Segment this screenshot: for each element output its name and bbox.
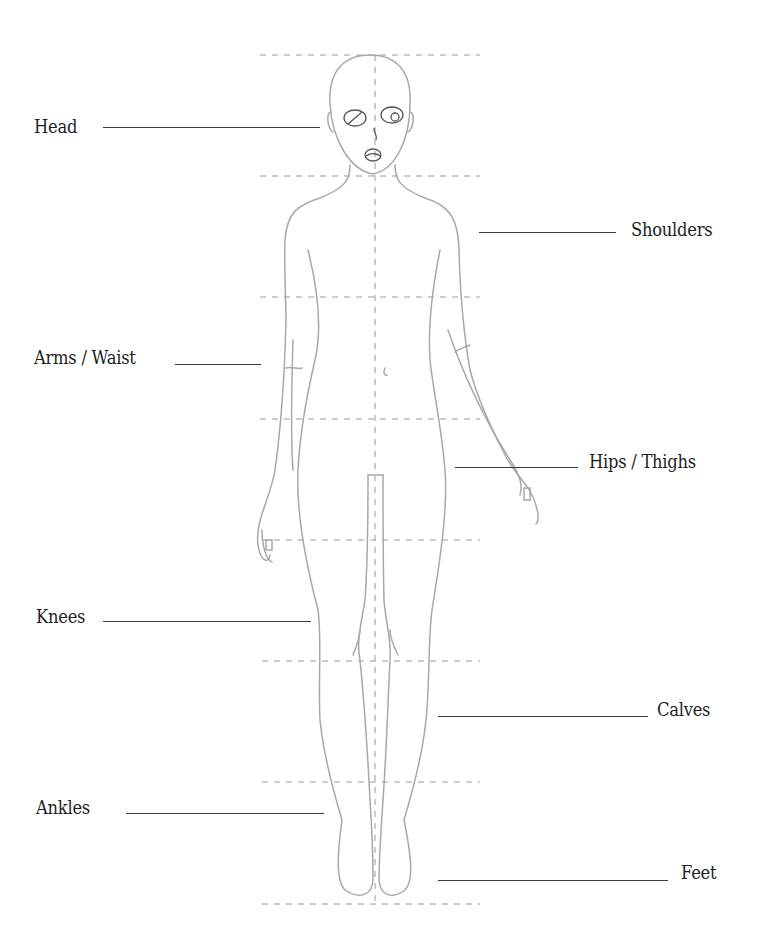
label-feet: Feet [681, 861, 716, 883]
label-knees: Knees [36, 605, 85, 627]
leader-ankles [126, 813, 324, 814]
body-outline [258, 55, 538, 895]
label-arms-waist: Arms / Waist [34, 346, 136, 368]
label-hips-thighs: Hips / Thighs [589, 450, 696, 472]
label-calves: Calves [657, 698, 710, 720]
figure-drawing [0, 0, 766, 951]
label-shoulders: Shoulders [631, 218, 712, 240]
leader-calves [438, 716, 648, 717]
leader-knees [103, 621, 311, 622]
leader-feet [438, 880, 668, 881]
leader-hips-thighs [455, 467, 578, 468]
leader-head [103, 127, 320, 128]
proportion-guides [260, 55, 480, 905]
leader-shoulders [479, 232, 616, 233]
label-ankles: Ankles [36, 796, 90, 818]
leader-arms-waist [175, 364, 261, 365]
label-head: Head [34, 115, 77, 137]
face-features [344, 107, 403, 161]
